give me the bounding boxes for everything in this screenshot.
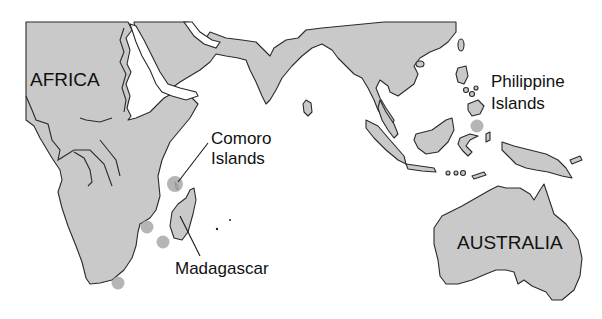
marker-mozambique [141, 221, 154, 234]
marker-south-africa [112, 277, 125, 290]
timor [472, 172, 486, 179]
label-madagascar: Madagascar [175, 259, 269, 278]
label-comoro-line2: Islands [211, 149, 265, 168]
map-canvas [0, 0, 602, 319]
lesser-sunda-2 [454, 171, 458, 175]
new-guinea [502, 142, 572, 178]
label-philippine-line1: Philippine [491, 72, 565, 91]
borneo [414, 118, 454, 154]
madagascar-island [170, 188, 196, 240]
taiwan-island [458, 39, 464, 51]
visayas-island-1 [464, 88, 469, 93]
comoro-leader-line [178, 143, 208, 182]
visayas-island-2 [470, 92, 475, 97]
sri-lanka [303, 100, 312, 116]
mindanao [468, 100, 484, 116]
lesser-sunda-3 [461, 171, 466, 176]
label-comoro-line1: Comoro [211, 129, 271, 148]
halmahera [486, 132, 490, 142]
sulawesi [458, 134, 478, 156]
marker-philippines [471, 120, 484, 133]
label-australia: AUSTRALIA [457, 233, 563, 252]
label-philippine-line2: Islands [491, 94, 545, 113]
luzon [456, 66, 468, 84]
visayas-island-3 [474, 86, 478, 90]
new-britain [570, 156, 582, 164]
hainan-island [416, 61, 424, 67]
marker-channel-south [157, 236, 170, 249]
lesser-sunda-1 [446, 171, 450, 175]
label-africa: AFRICA [30, 70, 100, 89]
java [406, 164, 436, 172]
seychelles-islet-1 [216, 228, 218, 230]
seychelles-islet-2 [229, 219, 231, 221]
